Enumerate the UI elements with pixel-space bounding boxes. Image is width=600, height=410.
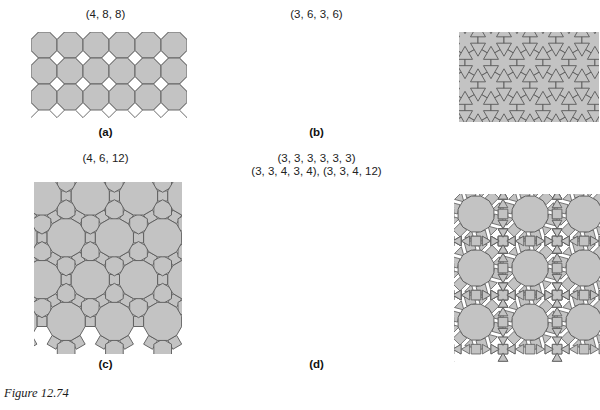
sub-label-d: (d) [211, 358, 422, 370]
sub-label-a: (a) [0, 126, 211, 138]
vertex-config-label-a: (4, 8, 8) [0, 8, 211, 21]
sub-label-b: (b) [211, 126, 422, 138]
sub-label-c: (c) [0, 358, 211, 370]
tiling-svg-a [31, 32, 187, 122]
panel-d: (3, 3, 3, 3, 3, 3) (3, 3, 4, 3, 4), (3, … [211, 152, 422, 380]
panel-c: (4, 6, 12) (c) [0, 152, 211, 380]
tiling-figure-c [34, 182, 182, 354]
panel-b: (3, 6, 3, 6) (b) [211, 8, 422, 144]
tiling-svg-b [459, 32, 599, 122]
vertex-config-label-c: (4, 6, 12) [0, 152, 211, 165]
tiling-svg-c [34, 182, 182, 354]
tiling-figure-d [454, 194, 600, 362]
panel-a: (4, 8, 8) (a) [0, 8, 211, 144]
tiling-figure-a [31, 32, 187, 122]
tiling-figure-b [459, 32, 599, 122]
figure-caption: Figure 12.74 [4, 386, 69, 401]
tiling-svg-d [454, 194, 600, 362]
vertex-config-label-b: (3, 6, 3, 6) [211, 8, 422, 21]
vertex-config-label-d-line1: (3, 3, 3, 3, 3, 3) [211, 152, 422, 165]
vertex-config-label-d-line2: (3, 3, 4, 3, 4), (3, 3, 4, 12) [211, 165, 422, 178]
